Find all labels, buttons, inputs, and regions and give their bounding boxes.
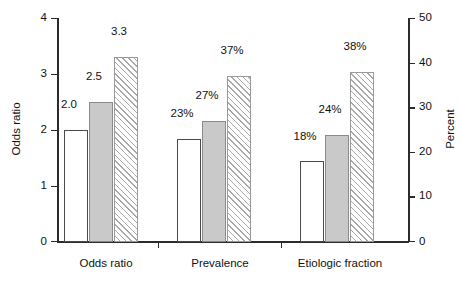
y-axis-right-tick-0 xyxy=(409,241,415,242)
bar-label-g0-s2: 3.3 xyxy=(100,26,138,38)
y-axis-left-title: Odds ratio xyxy=(10,94,22,164)
y-axis-left-label-4: 4 xyxy=(25,12,47,24)
y-axis-right-tick-30 xyxy=(409,107,415,108)
bar-g0-s2 xyxy=(114,57,138,242)
y-axis-right-title: Percent xyxy=(444,94,456,164)
bar-g1-s0 xyxy=(177,139,201,242)
bar-chart: 4 3 2 1 0 Odds ratio 50 40 30 20 10 0 Pe… xyxy=(0,0,461,283)
y-axis-left-label-1: 1 xyxy=(25,180,47,192)
y-axis-left-label-2: 2 xyxy=(25,124,47,136)
bar-label-g0-s1: 2.5 xyxy=(75,71,113,83)
y-axis-right-label-30: 30 xyxy=(419,101,443,113)
bar-label-g0-s0: 2.0 xyxy=(50,99,88,111)
bar-g0-s0 xyxy=(64,130,88,242)
y-axis-right-tick-50 xyxy=(409,18,415,19)
bar-label-g1-s2: 37% xyxy=(213,45,251,57)
x-axis-category-label-0: Odds ratio xyxy=(51,258,161,270)
y-axis-right-label-0: 0 xyxy=(419,236,443,248)
y-axis-left-label-3: 3 xyxy=(25,68,47,80)
x-axis-category-label-1: Prevalence xyxy=(165,258,275,270)
bar-label-g1-s0: 23% xyxy=(163,108,201,120)
bar-label-g2-s0: 18% xyxy=(286,131,324,143)
bar-g1-s1 xyxy=(202,121,226,242)
y-axis-right-label-50: 50 xyxy=(419,12,443,24)
y-axis-right-tick-20 xyxy=(409,152,415,153)
bar-g0-s1 xyxy=(89,102,113,242)
y-axis-right-tick-40 xyxy=(409,63,415,64)
bar-g2-s0 xyxy=(300,161,324,242)
x-axis-category-label-2: Etiologic fraction xyxy=(275,258,405,270)
x-axis-tick-1 xyxy=(281,242,282,248)
bar-label-g2-s1: 24% xyxy=(311,104,349,116)
bar-g2-s1 xyxy=(325,135,349,243)
bar-label-g1-s1: 27% xyxy=(188,90,226,102)
y-axis-right-label-10: 10 xyxy=(419,190,443,202)
y-axis-left-label-0: 0 xyxy=(25,236,47,248)
y-axis-right-label-20: 20 xyxy=(419,146,443,158)
bar-g2-s2 xyxy=(350,72,374,242)
bar-label-g2-s2: 38% xyxy=(336,41,374,53)
x-axis-tick-0 xyxy=(158,242,159,248)
y-axis-right-tick-10 xyxy=(409,196,415,197)
y-axis-right-label-40: 40 xyxy=(419,57,443,69)
bar-g1-s2 xyxy=(227,76,251,242)
